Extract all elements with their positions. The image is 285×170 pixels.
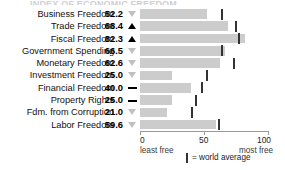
trend-down-icon [128, 60, 136, 66]
score-bar [140, 95, 172, 105]
bar-track [140, 106, 285, 118]
trend-indicator [127, 106, 139, 118]
world-average-marker [218, 119, 220, 130]
trend-indicator [127, 57, 139, 69]
trend-down-icon [128, 11, 136, 17]
bar-track [140, 20, 285, 32]
indicator-label: Financial Freedom [4, 82, 114, 94]
bar-track [140, 69, 285, 81]
world-average-marker [191, 107, 193, 118]
trend-down-icon [128, 72, 136, 78]
world-average-marker [235, 21, 237, 32]
axis-least-free-label: least free [140, 146, 174, 155]
world-average-marker [238, 33, 240, 44]
axis-tick-label: 0 [140, 136, 145, 145]
trend-flat-icon [128, 87, 137, 89]
score-bar [140, 71, 172, 81]
indicator-label: Business Freedom [4, 8, 114, 20]
indicator-label: Investment Freedom [4, 69, 114, 81]
bar-track [140, 57, 285, 69]
indicator-row: Property Rights25.0 [0, 94, 285, 106]
trend-up-icon [128, 36, 136, 42]
indicator-value: 68.4 [99, 20, 123, 32]
trend-indicator [127, 20, 139, 32]
indicator-value: 52.2 [99, 8, 123, 20]
indicator-value: 66.5 [99, 45, 123, 57]
indicator-value: 40.0 [99, 82, 123, 94]
world-average-marker-icon [186, 153, 188, 163]
trend-indicator [127, 69, 139, 81]
bar-track [140, 82, 285, 94]
indicator-value: 25.0 [99, 94, 123, 106]
world-average-marker [206, 70, 208, 81]
indicator-value: 62.6 [99, 57, 123, 69]
score-bar [140, 108, 167, 118]
score-bar [140, 34, 245, 44]
indicator-row: Fdm. from Corruption21.0 [0, 106, 285, 118]
bar-track [140, 45, 285, 57]
indicator-label: Monetary Freedom [4, 57, 114, 69]
indicator-row: Business Freedom52.2 [0, 8, 285, 20]
indicator-row: Trade Freedom68.4 [0, 20, 285, 32]
bar-track [140, 119, 285, 131]
world-average-marker [221, 45, 223, 56]
world-average-marker [201, 82, 203, 93]
world-average-marker [233, 58, 235, 69]
world-average-marker [195, 95, 197, 106]
indicator-label: Fdm. from Corruption [4, 106, 114, 118]
indicator-value: 21.0 [99, 106, 123, 118]
trend-indicator [127, 45, 139, 57]
trend-up-icon [128, 23, 136, 29]
score-bar [140, 83, 191, 93]
indicator-row: Labor Freedom59.6 [0, 119, 285, 131]
bar-track [140, 8, 285, 20]
score-bar [140, 58, 220, 68]
trend-flat-icon [128, 100, 137, 102]
trend-down-icon [128, 109, 136, 115]
indicator-row: Monetary Freedom62.6 [0, 57, 285, 69]
indicator-value: 59.6 [99, 119, 123, 131]
indicator-row: Fiscal Freedom82.3 [0, 33, 285, 45]
bar-track [140, 33, 285, 45]
indicator-label: Government Spending [4, 45, 114, 57]
axis-tick-label: 100 [257, 136, 271, 145]
indicator-label: Property Rights [4, 94, 114, 106]
indicator-value: 82.3 [99, 33, 123, 45]
score-bar [140, 46, 225, 56]
trend-indicator [127, 94, 139, 106]
economic-freedom-chart: INDEX OF ECONOMIC FREEDOM Business Freed… [0, 0, 285, 170]
indicator-rows: Business Freedom52.2Trade Freedom68.4Fis… [0, 8, 285, 131]
indicator-row: Financial Freedom40.0 [0, 82, 285, 94]
indicator-row: Government Spending66.5 [0, 45, 285, 57]
indicator-label: Labor Freedom [4, 119, 114, 131]
trend-indicator [127, 33, 139, 45]
score-bar [140, 120, 216, 130]
bar-track [140, 94, 285, 106]
indicator-label: Trade Freedom [4, 20, 114, 32]
indicator-label: Fiscal Freedom [4, 33, 114, 45]
trend-indicator [127, 8, 139, 20]
trend-indicator [127, 82, 139, 94]
score-bar [140, 9, 207, 19]
axis-tick-label: 50 [199, 136, 208, 145]
trend-down-icon [128, 122, 136, 128]
legend-label: = world average [192, 152, 250, 163]
indicator-row: Investment Freedom25.0 [0, 69, 285, 81]
indicator-value: 25.0 [99, 69, 123, 81]
world-average-marker [221, 9, 223, 20]
chart-title-sliver: INDEX OF ECONOMIC FREEDOM [30, 0, 230, 5]
score-bar [140, 21, 228, 31]
trend-indicator [127, 119, 139, 131]
trend-down-icon [128, 48, 136, 54]
